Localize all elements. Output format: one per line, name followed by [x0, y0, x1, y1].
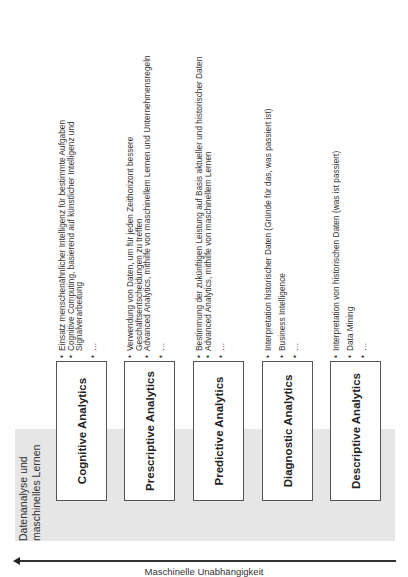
- bullet-item: Advanced Analytics, mithilfe von maschin…: [204, 57, 213, 358]
- bullet-item: …: [157, 55, 166, 358]
- bullet-item: …: [359, 151, 368, 358]
- box-title: Diagnostic Analytics: [282, 375, 294, 488]
- box-descriptive: Descriptive Analytics: [330, 361, 381, 501]
- independence-axis-line: [15, 560, 396, 562]
- bullets-prescriptive: Verwendung von Daten, um für jeden Zeith…: [126, 55, 170, 358]
- bullet-item: Business Intelligence: [278, 108, 287, 358]
- bullets-predictive: Bestimmung der zukünftigen Leistung auf …: [195, 57, 231, 358]
- bullets-descriptive: Interpretation von historischen Daten (w…: [332, 151, 373, 358]
- bullet-item: Signalverarbeitung: [75, 120, 84, 358]
- arrow-left-icon: [13, 557, 20, 565]
- box-title: Predictive Analytics: [213, 377, 225, 486]
- bullet-item: Interpretation von historischen Daten (w…: [332, 151, 341, 358]
- bullet-item: …: [217, 57, 226, 358]
- band-label: Datenanalyse und maschinelles Lernen: [17, 429, 51, 541]
- bullets-diagnostic: Interpretation historischer Daten (Gründ…: [264, 108, 305, 358]
- band-label-line1: Datenanalyse und: [17, 429, 30, 541]
- box-title: Prescriptive Analytics: [144, 371, 156, 491]
- box-prescriptive: Prescriptive Analytics: [124, 361, 175, 501]
- bullet-item: Interpretation historischer Daten (Gründ…: [264, 108, 273, 358]
- box-cognitive: Cognitive Analytics: [56, 361, 107, 501]
- band-label-line2: maschinelles Lernen: [30, 429, 43, 541]
- box-title: Descriptive Analytics: [350, 373, 362, 489]
- bullet-item: Advanced Analytics, mithilfe von maschin…: [143, 55, 152, 358]
- box-diagnostic: Diagnostic Analytics: [262, 361, 313, 501]
- bullets-cognitive: Einsatz menschenähnlicher Intelligenz fü…: [58, 120, 102, 358]
- bullet-item: …: [89, 120, 98, 358]
- bullet-item: Data Mining: [346, 151, 355, 358]
- axis-label: Maschinelle Unabhängigkeit: [0, 566, 408, 577]
- box-predictive: Predictive Analytics: [193, 361, 244, 501]
- bullet-item: …: [291, 108, 300, 358]
- box-title: Cognitive Analytics: [76, 378, 88, 484]
